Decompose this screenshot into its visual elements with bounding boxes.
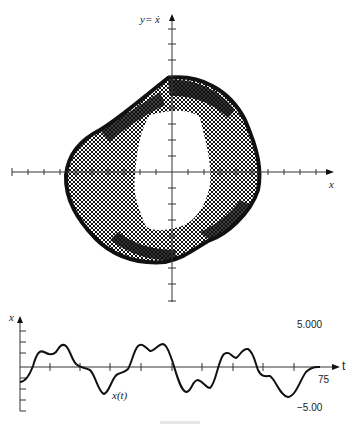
- ts-xmax-label: 75: [318, 374, 329, 385]
- attractor-region: [66, 77, 260, 262]
- ts-x-arrow-icon: [332, 364, 340, 370]
- ts-x-axis-label: t: [342, 359, 345, 373]
- phase-x-axis-label: x: [329, 178, 334, 190]
- ts-y-arrow-icon: [17, 316, 23, 323]
- ts-curve: [20, 344, 320, 397]
- phase-y-axis-label: y= ẋ: [140, 13, 160, 25]
- ts-ymin-label: −5.00: [297, 402, 322, 413]
- ts-curve-label: x(t): [112, 389, 127, 401]
- figure-canvas: [0, 0, 356, 431]
- ts-y-ticks: [20, 331, 26, 411]
- phase-y-arrow-icon: [169, 14, 175, 21]
- phase-x-arrow-icon: [326, 169, 334, 175]
- ts-ymax-label: 5.000: [297, 319, 322, 330]
- figure-caption: [160, 421, 200, 424]
- ts-y-axis-label: x: [9, 311, 14, 323]
